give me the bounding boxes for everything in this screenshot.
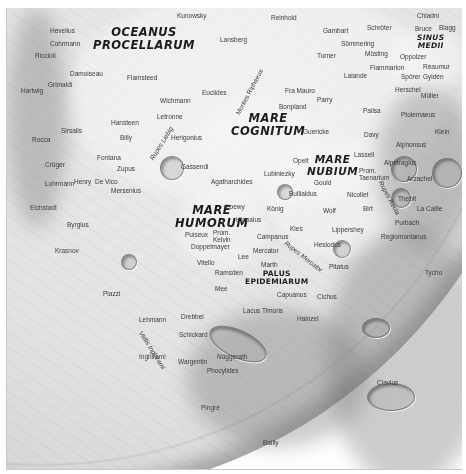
- label-bruce: Bruce: [415, 26, 432, 33]
- palus-line2: EPIDEMIARUM: [245, 278, 308, 286]
- label-prom-taenarium: Prom. Taenarium: [359, 168, 395, 181]
- cognitum-line2: COGNITUM: [231, 125, 305, 138]
- nubium-line2: NUBIUM: [307, 166, 358, 178]
- label-wichmann: Wichmann: [160, 98, 191, 105]
- label-lippershey: Lippershey: [332, 227, 364, 234]
- label-grimaldi: Grimaldi: [48, 82, 72, 89]
- label-lohrmann: Lohrmann: [45, 181, 74, 188]
- label-capuanus: Capuanus: [277, 292, 307, 299]
- label-turner: Turner: [317, 53, 336, 60]
- label-cruger: Crüger: [45, 162, 65, 169]
- label-sporer: Spörer: [401, 74, 421, 81]
- label-gassendi: Gassendi: [181, 164, 208, 171]
- label-flamsteed: Flamsteed: [127, 75, 157, 82]
- label-hippalus: Hippalus: [236, 217, 261, 224]
- label-sommering: Sömmering: [341, 41, 374, 48]
- label-lansberg: Lansberg: [220, 37, 247, 44]
- label-tycho: Tycho: [425, 270, 442, 277]
- sinus-line2: MEDII: [417, 42, 444, 50]
- oceanus-line1: OCEANUS: [93, 26, 195, 39]
- label-kies: Kies: [290, 226, 303, 233]
- label-damoiseau: Damoiseau: [70, 71, 103, 78]
- label-blagg: Blagg: [439, 25, 456, 32]
- label-bullialdus: Bullialdus: [289, 191, 317, 198]
- label-la-caille: La Caille: [417, 206, 442, 213]
- label-gambart: Gambart: [323, 28, 348, 35]
- label-reaumur: Réaumur: [423, 64, 450, 71]
- label-doppelmayer: Doppelmayer: [191, 244, 230, 251]
- map-frame: OCEANUS PROCELLARUM MARE COGNITUM MARE N…: [6, 8, 462, 470]
- label-cohrmann: Cohrmann: [50, 41, 80, 48]
- ptolemaeus-crater: [432, 158, 462, 188]
- label-bonpland: Bonpland: [279, 104, 306, 111]
- label-birt: Birt: [363, 206, 373, 213]
- label-chladni: Chladni: [417, 13, 439, 20]
- label-euclides: Euclides: [202, 90, 227, 97]
- label-guericke: Guericke: [303, 129, 329, 136]
- label-reinhold: Reinhold: [271, 15, 297, 22]
- label-hevelius: Hevelius: [50, 28, 75, 35]
- crater-south-2: [367, 383, 415, 411]
- label-mosting: Mösting: [365, 51, 388, 58]
- oceanus-line2: PROCELLARUM: [93, 39, 195, 52]
- label-mee: Mee: [215, 286, 228, 293]
- label-hartwig: Hartwig: [21, 88, 43, 95]
- label-rocca: Rocca: [32, 137, 50, 144]
- label-oceanus-procellarum: OCEANUS PROCELLARUM: [93, 26, 195, 52]
- label-bailly: Bailly: [263, 440, 279, 447]
- label-billy: Billy: [120, 135, 132, 142]
- label-muller: Müller: [421, 93, 439, 100]
- label-henry: Henry: [74, 179, 91, 186]
- label-hansteen: Hansteen: [111, 120, 139, 127]
- label-krasnov: Krasnov: [55, 248, 79, 255]
- label-fra-mauro: Fra Mauro: [285, 88, 315, 95]
- label-mare-nubium: MARE NUBIUM: [307, 154, 358, 178]
- crater-south-1: [362, 318, 390, 338]
- label-mercator: Mercator: [253, 248, 279, 255]
- label-alphonsus: Alphonsus: [396, 142, 426, 149]
- label-pingre: Pingré: [201, 405, 220, 412]
- label-lacus-timoris: Lacus Timoris: [243, 308, 283, 315]
- label-schickard: Schickard: [179, 332, 208, 339]
- label-purbach: Purbach: [395, 220, 419, 227]
- label-sirsalis: Sirsalis: [61, 128, 82, 135]
- label-herigonius: Herigonius: [171, 135, 202, 142]
- crater-west-1: [121, 254, 137, 270]
- label-schroter: Schröter: [367, 25, 392, 32]
- label-mersenius: Mersenius: [111, 188, 141, 195]
- label-piazzi: Piazzi: [103, 291, 120, 298]
- label-alpetragius: Alpetragius: [384, 160, 417, 167]
- label-wolf: Wolf: [323, 208, 336, 215]
- label-cichus: Cichus: [317, 294, 337, 301]
- label-arzachel: Arzachel: [407, 176, 432, 183]
- label-puiseux: Puiseux: [185, 232, 208, 239]
- label-marth: Marth: [261, 262, 278, 269]
- label-sinus-medii: SINUS MEDII: [417, 34, 444, 51]
- label-ptolemaeus: Ptolemaeus: [401, 112, 435, 119]
- label-lehmann: Lehmann: [139, 317, 166, 324]
- label-gylden: Gyldén: [423, 74, 444, 81]
- label-noggerath: Nöggerath: [217, 354, 247, 361]
- label-de-vico: De Vico: [95, 179, 118, 186]
- label-drebbel: Drebbel: [181, 314, 204, 321]
- label-zupus: Zupus: [117, 166, 135, 173]
- label-regiomontanus: Regiomontanus: [381, 234, 427, 241]
- label-lee: Lee: [238, 254, 249, 261]
- label-hesiodus: Hesiodus: [314, 242, 341, 249]
- label-oppolzer: Oppolzer: [400, 54, 426, 61]
- label-konig: König: [267, 206, 284, 213]
- label-opelt: Opelt: [293, 158, 309, 165]
- label-campanus: Campanus: [257, 234, 288, 241]
- label-parry: Parry: [317, 97, 333, 104]
- nubium-line1: MARE: [307, 154, 358, 166]
- label-agatharchides: Agatharchides: [211, 179, 253, 186]
- cognitum-line1: MARE: [231, 112, 305, 125]
- label-clavius: Clavius: [377, 380, 398, 387]
- label-palus-epidemiarum: PALUS EPIDEMIARUM: [245, 270, 308, 287]
- label-phocylides: Phocylides: [207, 368, 238, 375]
- label-hainzel: Hainzel: [297, 316, 319, 323]
- label-byrgius: Byrgius: [67, 222, 89, 229]
- label-wargentin: Wargentin: [178, 359, 207, 366]
- label-kunowsky: Kunowsky: [177, 13, 207, 20]
- label-ramsden: Ramsden: [215, 270, 243, 277]
